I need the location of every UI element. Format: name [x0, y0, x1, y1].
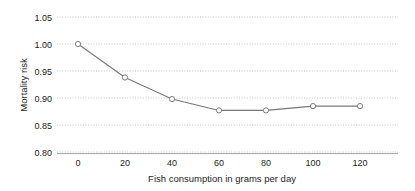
data-point	[122, 75, 127, 80]
gridlines	[57, 17, 398, 152]
x-tick-label: 120	[352, 158, 367, 168]
data-point	[75, 41, 80, 46]
x-tick-label: 60	[214, 158, 224, 168]
data-point	[357, 104, 362, 109]
x-tick-label: 100	[305, 158, 320, 168]
y-tick-label: 1.00	[34, 40, 52, 50]
y-axis-title: Mortality risk	[18, 58, 29, 112]
y-tick-label: 0.85	[34, 121, 52, 131]
y-tick-label: 1.05	[34, 13, 52, 23]
y-tick-label: 0.80	[34, 148, 52, 158]
x-tick-label: 40	[167, 158, 177, 168]
data-markers	[75, 41, 362, 113]
y-tick-label: 0.90	[34, 94, 52, 104]
x-tick-label: 20	[120, 158, 130, 168]
data-line	[78, 44, 360, 110]
y-axis-tick-labels: 1.05 1.00 0.95 0.90 0.85 0.80	[34, 13, 52, 158]
y-tick-label: 0.95	[34, 67, 52, 77]
data-point	[216, 108, 221, 113]
line-chart: 1.05 1.00 0.95 0.90 0.85 0.80 0 20 40 60…	[0, 0, 415, 191]
data-point	[310, 104, 315, 109]
x-tick-label: 0	[75, 158, 80, 168]
data-point	[169, 96, 174, 101]
chart-container: 1.05 1.00 0.95 0.90 0.85 0.80 0 20 40 60…	[0, 0, 415, 191]
x-axis-title: Fish consumption in grams per day	[148, 173, 296, 184]
x-axis-tick-labels: 0 20 40 60 80 100 120	[75, 158, 367, 168]
data-point	[263, 108, 268, 113]
x-tick-label: 80	[261, 158, 271, 168]
